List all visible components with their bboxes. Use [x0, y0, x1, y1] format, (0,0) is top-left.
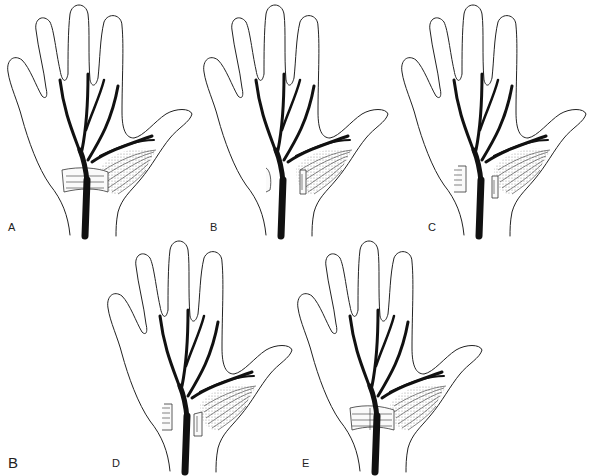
hand-illustration-c: [394, 0, 591, 240]
panel-label-c: C: [428, 222, 436, 233]
hand-illustration-d: [100, 236, 300, 476]
panel-label-a: A: [8, 222, 15, 233]
hand-illustration-b: [196, 0, 396, 240]
panel-b: B: [196, 0, 396, 240]
panel-label-d: D: [112, 458, 120, 469]
panel-label-b: B: [210, 222, 217, 233]
panel-d: D: [100, 236, 300, 476]
hand-illustration-a: [0, 0, 200, 240]
hand-illustration-e: [290, 236, 490, 476]
panel-label-e: E: [302, 458, 309, 469]
panel-c: C: [394, 0, 591, 240]
panel-a: A: [0, 0, 200, 240]
panel-e: E: [290, 236, 490, 476]
figure-part-label: B: [8, 455, 18, 470]
